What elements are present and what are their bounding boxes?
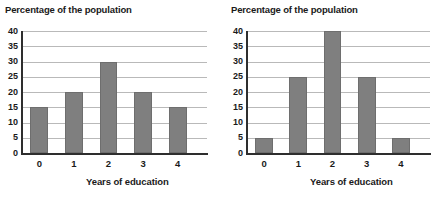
x-axis-line	[246, 153, 431, 155]
bar	[169, 107, 187, 153]
x-axis-tick-label: 3	[355, 158, 379, 169]
y-axis-tick-label: 5	[225, 133, 243, 142]
x-axis-tick-label: 2	[97, 158, 121, 169]
bar	[358, 77, 376, 153]
bar	[30, 107, 48, 153]
y-axis-tick-label: 5	[0, 133, 18, 142]
chart-title: Percentage of the population	[231, 4, 358, 15]
bar	[324, 31, 342, 153]
x-axis-title: Years of education	[86, 176, 169, 187]
y-axis-tick-label: 40	[225, 27, 243, 36]
bar-series	[22, 31, 207, 153]
x-axis-tick-label: 3	[131, 158, 155, 169]
two-bar-charts-figure: Percentage of the population Years of ed…	[0, 0, 434, 198]
y-axis-tick-label: 10	[0, 118, 18, 127]
y-axis-tick-label: 20	[225, 88, 243, 97]
bar	[134, 92, 152, 153]
bar-chart-left: Percentage of the population Years of ed…	[0, 0, 217, 198]
bar	[255, 138, 273, 153]
y-axis-tick-label: 40	[0, 27, 18, 36]
x-axis-tick-label: 4	[166, 158, 190, 169]
x-axis-tick-label: 2	[321, 158, 345, 169]
y-axis-tick-label: 25	[225, 72, 243, 81]
y-axis-tick-label: 15	[225, 103, 243, 112]
x-axis-tick-label: 1	[286, 158, 310, 169]
x-axis-tick-label: 0	[27, 158, 51, 169]
bar-chart-right: Percentage of the population Years of ed…	[217, 0, 434, 198]
x-axis-tick-label: 0	[252, 158, 276, 169]
y-axis-tick-label: 30	[225, 57, 243, 66]
chart-title: Percentage of the population	[5, 4, 132, 15]
y-axis-tick-label: 35	[225, 42, 243, 51]
bar	[289, 77, 307, 153]
y-axis-tick-label: 0	[225, 149, 243, 158]
y-axis-tick-label: 25	[0, 72, 18, 81]
x-axis-tick-label: 1	[62, 158, 86, 169]
bar-series	[247, 31, 430, 153]
y-axis-tick-label: 35	[0, 42, 18, 51]
y-axis-tick-label: 15	[0, 103, 18, 112]
y-axis-tick-label: 30	[0, 57, 18, 66]
x-axis-title: Years of education	[310, 176, 393, 187]
bar	[100, 62, 118, 154]
x-axis-line	[21, 153, 208, 155]
y-axis-tick-label: 20	[0, 88, 18, 97]
bar	[392, 138, 410, 153]
y-axis-tick-label: 10	[225, 118, 243, 127]
y-axis-tick-label: 0	[0, 149, 18, 158]
bar	[65, 92, 83, 153]
x-axis-tick-label: 4	[389, 158, 413, 169]
